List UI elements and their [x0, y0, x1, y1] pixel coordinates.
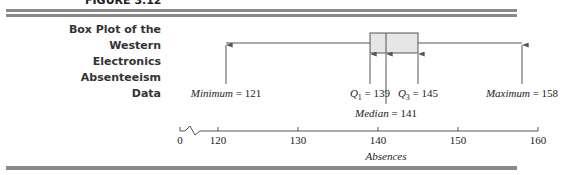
box-plot-chart: Minimum = 121Q1 = 139Median = 141Q3 = 14…	[0, 0, 567, 175]
annotation-label-max: Maximum = 158	[485, 87, 559, 99]
x-tick-label-140: 140	[370, 134, 387, 146]
annotation-label-q3: Q3 = 145	[398, 87, 439, 102]
bottom-rule	[6, 166, 517, 170]
x-tick-label-150: 150	[450, 134, 467, 146]
x-tick-label-0: 0	[177, 134, 183, 146]
annotation-label-q1: Q1 = 139	[350, 87, 391, 102]
box	[370, 33, 418, 53]
annotation-label-median: Median = 141	[354, 107, 417, 119]
x-axis-line	[180, 126, 538, 135]
x-tick-label-130: 130	[290, 134, 307, 146]
x-tick-label-160: 160	[530, 134, 547, 146]
annotation-label-min: Minimum = 121	[190, 87, 261, 99]
x-axis-label: Absences	[365, 150, 407, 162]
x-tick-label-120: 120	[210, 134, 227, 146]
